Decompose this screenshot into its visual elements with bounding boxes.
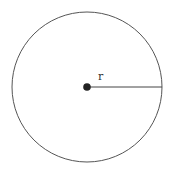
radius-label: r bbox=[98, 70, 104, 83]
center-dot bbox=[83, 83, 91, 91]
circle-diagram: r bbox=[0, 0, 171, 171]
